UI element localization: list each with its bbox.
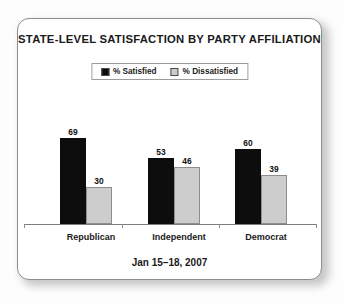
legend-entry-satisfied: % Satisfied — [101, 67, 157, 76]
bar-democrat-dissatisfied: 39 — [261, 175, 287, 224]
bar-value-democrat-dissatisfied: 39 — [269, 164, 278, 174]
bar-independent-satisfied: 53 — [148, 158, 174, 224]
bar-group-republican: 69 30 — [52, 99, 130, 224]
bar-group-independent: 53 46 — [140, 99, 218, 224]
plot-area: 69 30 53 46 60 39 — [24, 99, 317, 224]
bar-republican-dissatisfied: 30 — [86, 187, 112, 225]
chart-figure: STATE-LEVEL SATISFACTION BY PARTY AFFILI… — [0, 0, 343, 304]
bar-independent-dissatisfied: 46 — [174, 167, 200, 225]
legend-swatch-dissatisfied — [171, 68, 179, 76]
bar-value-independent-dissatisfied: 46 — [182, 156, 191, 166]
bar-value-republican-satisfied: 69 — [68, 127, 77, 137]
x-axis-tick-end — [316, 224, 317, 228]
chart-card: STATE-LEVEL SATISFACTION BY PARTY AFFILI… — [17, 18, 322, 280]
bar-republican-satisfied: 69 — [60, 138, 86, 224]
chart-title: STATE-LEVEL SATISFACTION BY PARTY AFFILI… — [18, 33, 321, 45]
x-axis-tick-2 — [219, 224, 220, 228]
x-axis-tick-start — [24, 224, 25, 228]
legend-label-satisfied: % Satisfied — [113, 67, 157, 76]
category-label-independent: Independent — [140, 232, 218, 242]
bar-value-republican-dissatisfied: 30 — [94, 176, 103, 186]
category-label-republican: Republican — [52, 232, 130, 242]
bar-value-democrat-satisfied: 60 — [243, 138, 252, 148]
x-axis-line — [24, 224, 317, 225]
legend-swatch-satisfied — [101, 68, 109, 76]
chart-legend: % Satisfied % Dissatisfied — [91, 63, 248, 80]
category-labels: Republican Independent Democrat — [24, 232, 317, 248]
legend-label-dissatisfied: % Dissatisfied — [183, 67, 239, 76]
legend-entry-dissatisfied: % Dissatisfied — [171, 67, 239, 76]
category-label-democrat: Democrat — [227, 232, 305, 242]
chart-footnote: Jan 15–18, 2007 — [18, 257, 321, 268]
bar-value-independent-satisfied: 53 — [156, 147, 165, 157]
bar-democrat-satisfied: 60 — [235, 149, 261, 224]
bar-group-democrat: 60 39 — [227, 99, 305, 224]
x-axis-tick-1 — [122, 224, 123, 228]
